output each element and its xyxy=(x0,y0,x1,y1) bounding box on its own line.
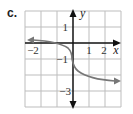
x-tick-neg2: −2 xyxy=(27,44,39,56)
y-axis-label: y xyxy=(79,6,86,20)
y-axis-arrow-up-icon xyxy=(70,9,77,17)
y-axis-arrow-down-icon xyxy=(70,101,77,109)
curve-right-arrow-icon xyxy=(114,78,121,85)
y-tick-1: 1 xyxy=(63,21,69,33)
graph: −2 1 2 x 1 −1 −3 y xyxy=(0,0,133,114)
x-axis-label: x xyxy=(112,43,119,57)
y-tick-neg3: −3 xyxy=(59,85,71,97)
y-tick-neg1: −1 xyxy=(56,53,68,65)
x-tick-2: 2 xyxy=(101,44,107,56)
x-tick-1: 1 xyxy=(86,44,92,56)
